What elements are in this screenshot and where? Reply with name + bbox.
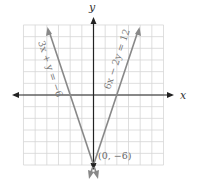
line-3x-plus-y	[46, 27, 99, 179]
y-axis	[91, 17, 97, 170]
x-axis-label: x	[180, 89, 187, 102]
point-label: (0, −6)	[98, 150, 132, 161]
y-axis-label: y	[88, 1, 96, 14]
intercept-point	[92, 163, 96, 167]
graph: x y 3x + y = −6 6x − 2y = 12 (0, −6)	[0, 0, 198, 190]
